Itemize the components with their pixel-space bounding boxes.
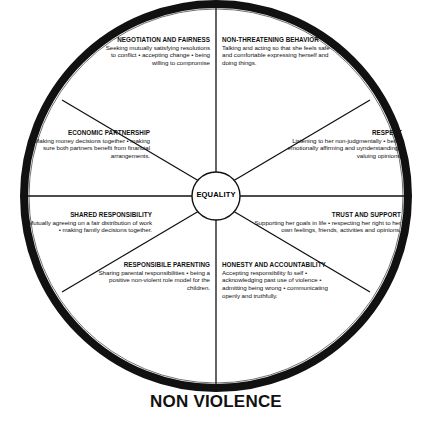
segment-non-threatening-behavior: NON-THREATENING BEHAVIOR Talking and act…	[222, 36, 330, 67]
segment-negotiation-and-fairness: NEGOTIATION AND FAIRNESS Seeking mutuall…	[104, 36, 210, 67]
segment-responsible-parenting: RESPONSIBILE PARENTING Sharing parental …	[96, 261, 210, 292]
segment-economic-partnership: ECONOMIC PARTNERSHIP Making money decisi…	[28, 129, 150, 160]
segment-body: Sharing parental responsibilities • bein…	[96, 269, 210, 292]
segment-body: Making money decisions together • making…	[28, 137, 150, 160]
segment-body: Supporting her goals in life • respectin…	[249, 219, 401, 234]
segment-title: HONESTY AND ACCOUNTABILITY	[222, 261, 338, 269]
segment-shared-responsibility: SHARED RESPONSIBILITY Mutually agreeing …	[28, 211, 152, 234]
segment-body: Accepting responsibility fo self • ackno…	[222, 269, 338, 299]
segment-body: Listening to her non-judgmentally • bein…	[282, 137, 402, 160]
segment-title: SHARED RESPONSIBILITY	[28, 211, 152, 219]
segment-body: Talking and acting so that she feels saf…	[222, 44, 330, 67]
segment-respect: RESPECT Listening to her non-judgmentall…	[282, 129, 402, 160]
segment-honesty-and-accountability: HONESTY AND ACCOUNTABILITY Accepting res…	[222, 261, 338, 299]
segment-title: ECONOMIC PARTNERSHIP	[28, 129, 150, 137]
segment-title: NEGOTIATION AND FAIRNESS	[104, 36, 210, 44]
hub-label: EQUALITY	[180, 190, 252, 199]
segment-trust-and-support: TRUST AND SUPPORT Supporting her goals i…	[249, 211, 401, 234]
segment-body: Mutually agreeing on a fair distribution…	[28, 219, 152, 234]
segment-title: RESPONSIBILE PARENTING	[96, 261, 210, 269]
segment-body: Seeking mutually satisfying resolutions …	[104, 44, 210, 67]
segment-title: TRUST AND SUPPORT	[249, 211, 401, 219]
equality-wheel-figure: NEGOTIATION AND FAIRNESS Seeking mutuall…	[0, 0, 432, 423]
figure-caption: NON VIOLENCE	[0, 392, 432, 412]
segment-title: NON-THREATENING BEHAVIOR	[222, 36, 330, 44]
segment-title: RESPECT	[282, 129, 402, 137]
